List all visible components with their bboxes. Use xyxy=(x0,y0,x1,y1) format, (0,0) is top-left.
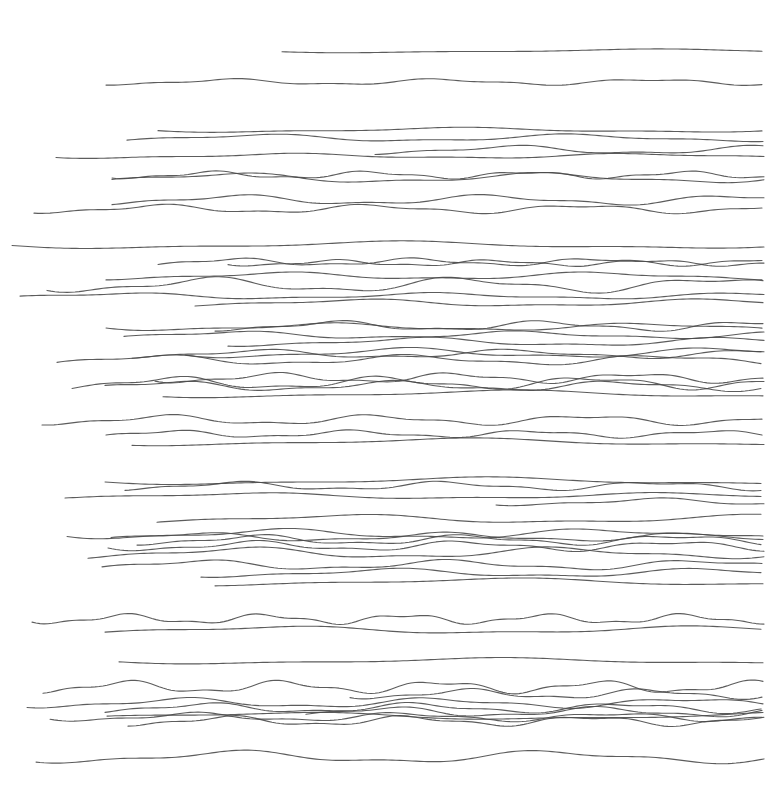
wavy-line xyxy=(105,477,761,485)
wavy-line xyxy=(106,430,762,438)
wavy-line xyxy=(163,390,763,398)
line-artwork xyxy=(0,0,766,806)
wavy-line xyxy=(36,750,764,764)
wavy-line xyxy=(56,153,764,158)
wavy-line xyxy=(105,626,761,633)
wavy-line xyxy=(375,145,763,154)
wavy-line xyxy=(228,260,764,267)
wavy-line xyxy=(112,195,764,206)
wavy-line xyxy=(201,568,761,577)
wavy-line xyxy=(20,293,764,299)
wavy-line xyxy=(43,680,763,694)
wavy-line xyxy=(282,49,762,53)
wavy-line xyxy=(106,79,762,86)
wavy-line xyxy=(158,127,762,132)
wavy-line xyxy=(155,372,763,383)
wavy-line xyxy=(106,323,762,331)
wavy-line xyxy=(102,559,762,569)
wavy-line xyxy=(215,578,763,586)
wavy-line xyxy=(32,613,764,624)
wavy-line xyxy=(47,277,763,293)
wavy-line xyxy=(42,415,762,426)
wavy-line xyxy=(34,204,762,213)
wavy-line xyxy=(132,438,764,446)
wavy-line xyxy=(157,514,761,522)
wavy-line xyxy=(119,658,763,664)
wavy-line xyxy=(496,498,764,506)
wavy-line xyxy=(306,706,762,716)
wavy-line xyxy=(108,540,764,551)
wavy-line xyxy=(195,299,763,306)
wavy-line xyxy=(12,241,764,249)
wavy-line xyxy=(88,547,764,559)
wavy-line xyxy=(127,134,763,142)
wavy-line xyxy=(105,380,761,391)
wavy-lines-group xyxy=(12,49,764,764)
